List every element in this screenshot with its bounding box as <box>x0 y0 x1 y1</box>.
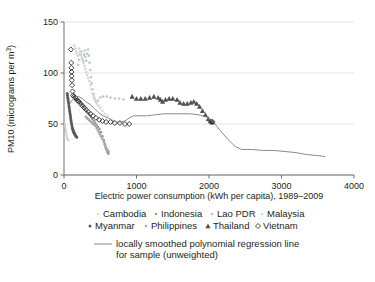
legend-label-indonesia: Indonesia <box>161 208 203 219</box>
data-point <box>113 97 116 100</box>
y-tick-label-50: 50 <box>48 119 58 129</box>
series-thailand <box>130 94 215 124</box>
y-axis-title-close: ) <box>6 45 16 48</box>
data-point <box>105 95 108 98</box>
x-tick-label-3000: 3000 <box>271 181 291 191</box>
legend-label-myanmar: Myanmar <box>95 220 135 231</box>
data-point <box>94 99 97 102</box>
data-series-layer <box>64 44 215 155</box>
data-point <box>79 50 82 53</box>
series-lao-pdr <box>77 48 125 103</box>
data-point <box>138 96 143 101</box>
data-point <box>99 106 102 109</box>
data-point <box>87 77 90 80</box>
svg-text:PM10 (micrograms per m3): PM10 (micrograms per m3) <box>5 45 16 153</box>
data-point <box>93 115 98 120</box>
data-point <box>134 96 139 101</box>
data-point <box>87 54 90 57</box>
data-point <box>68 47 73 52</box>
y-tick-label-150: 150 <box>43 17 58 27</box>
series-malaysia <box>73 44 109 117</box>
data-point <box>88 80 91 83</box>
data-point <box>97 99 100 102</box>
data-point <box>70 83 75 88</box>
x-tick-label-0: 0 <box>61 181 66 191</box>
legend-row-1: CambodiaIndonesiaLao PDRMalaysia <box>97 208 305 219</box>
data-point <box>77 64 80 67</box>
data-point <box>77 54 80 57</box>
data-point <box>97 104 100 107</box>
data-point <box>143 96 148 101</box>
data-point <box>95 102 98 105</box>
series-cambodia <box>64 123 70 141</box>
data-point <box>91 92 94 95</box>
data-point <box>107 150 110 153</box>
data-point <box>81 58 84 61</box>
data-point <box>118 97 121 100</box>
series-philippines <box>84 116 109 153</box>
data-point <box>86 74 89 77</box>
data-point <box>69 60 74 65</box>
data-point <box>89 69 92 72</box>
legend-marker-indonesia <box>155 213 158 216</box>
legend-label-vietnam: Vietnam <box>263 220 298 231</box>
data-point <box>93 95 96 98</box>
data-point <box>89 84 92 87</box>
data-point <box>106 115 109 118</box>
data-point <box>170 96 175 101</box>
x-axis-ticks: 01000200030004000 <box>61 175 364 191</box>
data-point <box>87 48 90 51</box>
data-point <box>109 96 112 99</box>
data-point <box>85 59 88 62</box>
data-point <box>80 55 83 58</box>
data-point <box>83 49 86 52</box>
data-point <box>82 62 85 65</box>
y-tick-label-100: 100 <box>43 68 58 78</box>
legend-regression-entry: locally smoothed polynomial regression l… <box>94 238 299 260</box>
y-axis-title: PM10 (micrograms per m3) <box>5 45 16 153</box>
data-point <box>99 96 102 99</box>
data-point <box>122 98 125 101</box>
legend-marker-thailand <box>205 223 210 228</box>
chart-canvas: 050100150 01000200030004000 PM10 (microg… <box>0 0 375 282</box>
legend-label-thailand: Thailand <box>213 220 249 231</box>
data-point <box>90 88 93 91</box>
data-point <box>84 55 87 58</box>
pm10-vs-electric-power-scatter-chart: 050100150 01000200030004000 PM10 (microg… <box>0 0 375 282</box>
data-point <box>102 95 105 98</box>
legend-marker-philippines <box>145 225 148 228</box>
data-point <box>73 44 76 47</box>
legend-label-cambodia: Cambodia <box>103 208 147 219</box>
data-point <box>75 136 78 139</box>
legend-label-philippines: Philippines <box>151 220 197 231</box>
legend-marker-cambodia <box>97 213 99 215</box>
legend-regression-label-line1: locally smoothed polynomial regression l… <box>116 238 299 249</box>
x-tick-label-4000: 4000 <box>344 181 364 191</box>
legend-marker-vietnam <box>256 224 261 229</box>
data-point <box>147 95 152 100</box>
x-axis-title: Electric power consumption (kWh per capi… <box>95 191 324 201</box>
data-point <box>103 113 106 116</box>
data-point <box>151 94 156 99</box>
legend-regression-label-line2: for sample (unweighted) <box>116 249 218 260</box>
y-axis-ticks: 050100150 <box>43 17 64 180</box>
data-point <box>78 58 81 61</box>
legend-row-2: MyanmarPhilippinesThailandVietnam <box>89 220 298 231</box>
legend-label-lao-pdr: Lao PDR <box>217 208 256 219</box>
data-point <box>84 68 87 71</box>
data-point <box>175 97 180 102</box>
data-point <box>68 139 70 141</box>
data-point <box>130 94 135 99</box>
data-point <box>86 52 89 55</box>
y-tick-label-0: 0 <box>53 170 58 180</box>
legend-marker-lao-pdr <box>211 213 214 216</box>
data-point <box>90 76 93 79</box>
data-point <box>78 47 81 50</box>
legend-label-malaysia: Malaysia <box>267 208 305 219</box>
data-point <box>117 120 122 125</box>
data-point <box>101 109 104 112</box>
x-tick-label-2000: 2000 <box>199 181 219 191</box>
x-tick-label-1000: 1000 <box>126 181 146 191</box>
data-point <box>74 47 77 50</box>
data-point <box>83 65 86 68</box>
